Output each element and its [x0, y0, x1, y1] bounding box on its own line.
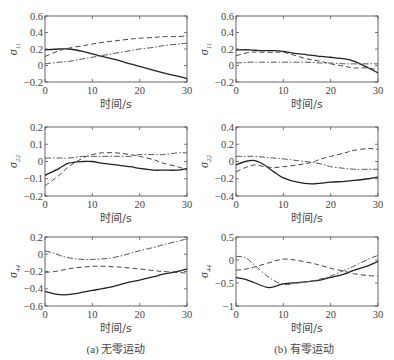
y-tick-label: 0.2	[221, 139, 234, 150]
x-tick-label: 30	[373, 199, 384, 210]
x-tick-label: 20	[325, 199, 336, 210]
subplot-b-1: −0.200.20.40.60102030σ11时间/s	[197, 11, 383, 112]
y-tick-label: 0.4	[221, 27, 235, 38]
y-tick-label: 0.2	[30, 122, 43, 133]
x-tick-label: 10	[87, 199, 98, 210]
x-tick-label: 10	[87, 85, 98, 96]
subplot-b-3: −1−0.500.50102030σ44时间/s	[197, 232, 383, 336]
y-tick-label: 0.6	[30, 11, 43, 22]
y-tick-label: 0.6	[221, 11, 234, 22]
y-axis-label: σ22	[197, 155, 213, 168]
x-axis-label: 时间/s	[291, 98, 323, 111]
x-tick-label: 20	[325, 309, 336, 320]
y-tick-label: −0.4	[215, 191, 235, 202]
x-tick-label: 0	[233, 85, 238, 96]
y-tick-label: 0	[229, 156, 234, 167]
x-tick-label: 30	[182, 199, 193, 210]
y-axis-label: σ11	[6, 43, 22, 55]
axes-frame	[236, 237, 378, 306]
x-tick-label: 0	[42, 199, 47, 210]
caption-left: (a) 无零运动	[87, 340, 146, 356]
x-tick-label: 20	[325, 85, 336, 96]
y-tick-label: −0.2	[24, 77, 43, 88]
x-tick-label: 30	[182, 309, 193, 320]
x-axis-label: 时间/s	[100, 322, 132, 335]
x-tick-label: 10	[278, 199, 289, 210]
y-tick-label: −0.2	[24, 266, 43, 277]
y-tick-label: 0.5	[221, 232, 234, 243]
y-tick-label: −0.5	[215, 278, 234, 289]
x-tick-label: 10	[87, 309, 98, 320]
x-tick-label: 0	[233, 309, 238, 320]
y-tick-label: 0.4	[221, 122, 235, 133]
y-axis-label: σ22	[6, 155, 22, 168]
x-tick-label: 30	[182, 85, 193, 96]
x-tick-label: 20	[134, 85, 145, 96]
y-tick-label: 0	[229, 255, 234, 266]
x-tick-label: 30	[373, 85, 384, 96]
x-axis-label: 时间/s	[100, 98, 132, 111]
y-tick-label: 0.2	[221, 44, 234, 55]
y-tick-label: −0.4	[24, 283, 44, 294]
x-tick-label: 10	[278, 85, 289, 96]
y-tick-label: −0.6	[24, 301, 43, 312]
y-tick-label: −0.1	[24, 173, 43, 184]
subplot-a-2: −0.2−0.100.10.20102030σ22时间/s	[6, 122, 192, 226]
subplot-b-2: −0.4−0.200.20.40102030σ22时间/s	[197, 122, 383, 226]
x-tick-label: 0	[42, 85, 47, 96]
y-tick-label: 0.2	[30, 232, 43, 243]
x-axis-label: 时间/s	[100, 212, 132, 225]
x-tick-label: 10	[278, 309, 289, 320]
x-tick-label: 20	[134, 199, 145, 210]
x-tick-label: 20	[134, 309, 145, 320]
figure: −0.200.20.40.60102030σ11时间/s−0.200.20.40…	[0, 0, 394, 360]
y-tick-label: −1	[223, 301, 234, 312]
y-tick-label: −0.2	[215, 77, 234, 88]
y-tick-label: 0	[229, 60, 234, 71]
axes-frame	[236, 16, 378, 82]
x-tick-label: 30	[373, 309, 384, 320]
subplot-a-1: −0.200.20.40.60102030σ11时间/s	[6, 11, 192, 112]
y-tick-label: 0.4	[30, 27, 44, 38]
y-tick-label: 0	[38, 249, 43, 260]
y-axis-label: σ44	[6, 265, 22, 278]
subplot-a-3: −0.6−0.4−0.200.20102030σ44时间/s	[6, 232, 192, 336]
y-tick-label: 0	[38, 156, 43, 167]
x-tick-label: 0	[233, 199, 238, 210]
axes-frame	[45, 127, 187, 196]
x-tick-label: 0	[42, 309, 47, 320]
y-tick-label: 0	[38, 60, 43, 71]
y-tick-label: 0.2	[30, 44, 43, 55]
y-tick-label: −0.2	[215, 173, 234, 184]
y-axis-label: σ11	[197, 43, 213, 55]
y-tick-label: −0.2	[24, 191, 43, 202]
y-tick-label: 0.1	[30, 139, 43, 150]
y-axis-label: σ44	[197, 265, 213, 278]
x-axis-label: 时间/s	[291, 212, 323, 225]
x-axis-label: 时间/s	[291, 322, 323, 335]
caption-right: (b) 有零运动	[274, 340, 334, 356]
